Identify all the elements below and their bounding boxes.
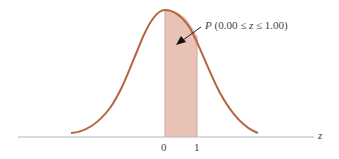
annotation-range-end: ≤ 1.00) (253, 19, 287, 31)
annotation-range-start: (0.00 ≤ (212, 19, 249, 31)
tick-label-0: 0 (161, 141, 167, 153)
axis-label-z: z (318, 129, 322, 141)
tick-label-1: 1 (194, 141, 200, 153)
probability-annotation: P (0.00 ≤ z ≤ 1.00) (205, 19, 288, 31)
annotation-p: P (205, 19, 212, 31)
shaded-region (165, 11, 197, 138)
normal-curve-chart (0, 0, 339, 159)
